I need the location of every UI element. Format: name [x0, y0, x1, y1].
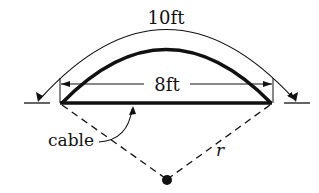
cable-label: cable [48, 130, 94, 150]
chord-length-label: 8ft [154, 74, 180, 95]
radius-label: r [216, 140, 225, 160]
arc-length-label: 10ft [148, 7, 186, 28]
arrow-right-icon [291, 92, 298, 102]
cable-leader-arrow-icon [129, 106, 136, 115]
arrow-left-icon [36, 92, 43, 102]
dim-arrow-right-icon [263, 81, 272, 87]
center-point [162, 175, 172, 185]
dim-arrow-left-icon [61, 81, 70, 87]
cable-arc-diagram: 10ft 8ft r cable [0, 0, 319, 193]
cable-leader-line [99, 109, 132, 142]
